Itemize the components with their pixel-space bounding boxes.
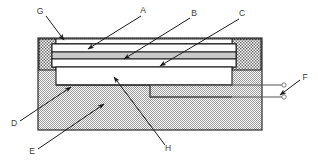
figure-canvas: G A B C F D E H <box>0 0 318 166</box>
cross-section-diagram: G A B C F D E H <box>0 0 318 166</box>
top-layer <box>52 44 236 52</box>
label-D: D <box>11 118 17 128</box>
label-E: E <box>29 146 35 156</box>
leader-G <box>46 16 64 40</box>
label-C: C <box>239 8 245 18</box>
terminal-dot-upper <box>282 83 286 87</box>
bottom-layer <box>52 59 236 67</box>
label-A: A <box>140 5 146 15</box>
interior-cavity <box>56 67 232 85</box>
label-H: H <box>165 143 171 153</box>
label-B: B <box>191 8 197 18</box>
leader-F <box>280 80 300 95</box>
layer-stack <box>52 44 236 67</box>
label-G: G <box>37 6 44 16</box>
middle-layer <box>52 52 236 59</box>
label-F: F <box>302 72 307 82</box>
top-recess <box>56 39 232 44</box>
terminal-dot-lower <box>282 95 286 99</box>
